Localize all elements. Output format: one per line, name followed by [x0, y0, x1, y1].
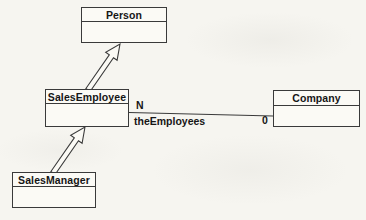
class-box-salesmanager: SalesManager: [12, 172, 96, 208]
class-box-salesemployee: SalesEmployee: [45, 89, 129, 127]
generalization-arrow-salesemployee-to-person-icon: [86, 44, 120, 92]
generalization-arrow-salesmanager-to-salesemployee-icon: [51, 127, 85, 175]
class-name-salesemployee: SalesEmployee: [46, 90, 128, 104]
class-box-person: Person: [81, 7, 167, 43]
class-box-company: Company: [273, 90, 360, 127]
class-name-person: Person: [82, 8, 166, 22]
association-role-label: theEmployees: [134, 116, 205, 127]
class-name-company: Company: [274, 91, 359, 106]
association-multiplicity-zero: 0: [262, 115, 268, 126]
class-name-salesmanager: SalesManager: [13, 173, 95, 187]
uml-class-diagram: Person SalesEmployee Company SalesManage…: [0, 0, 366, 220]
association-multiplicity-n: N: [136, 100, 144, 111]
